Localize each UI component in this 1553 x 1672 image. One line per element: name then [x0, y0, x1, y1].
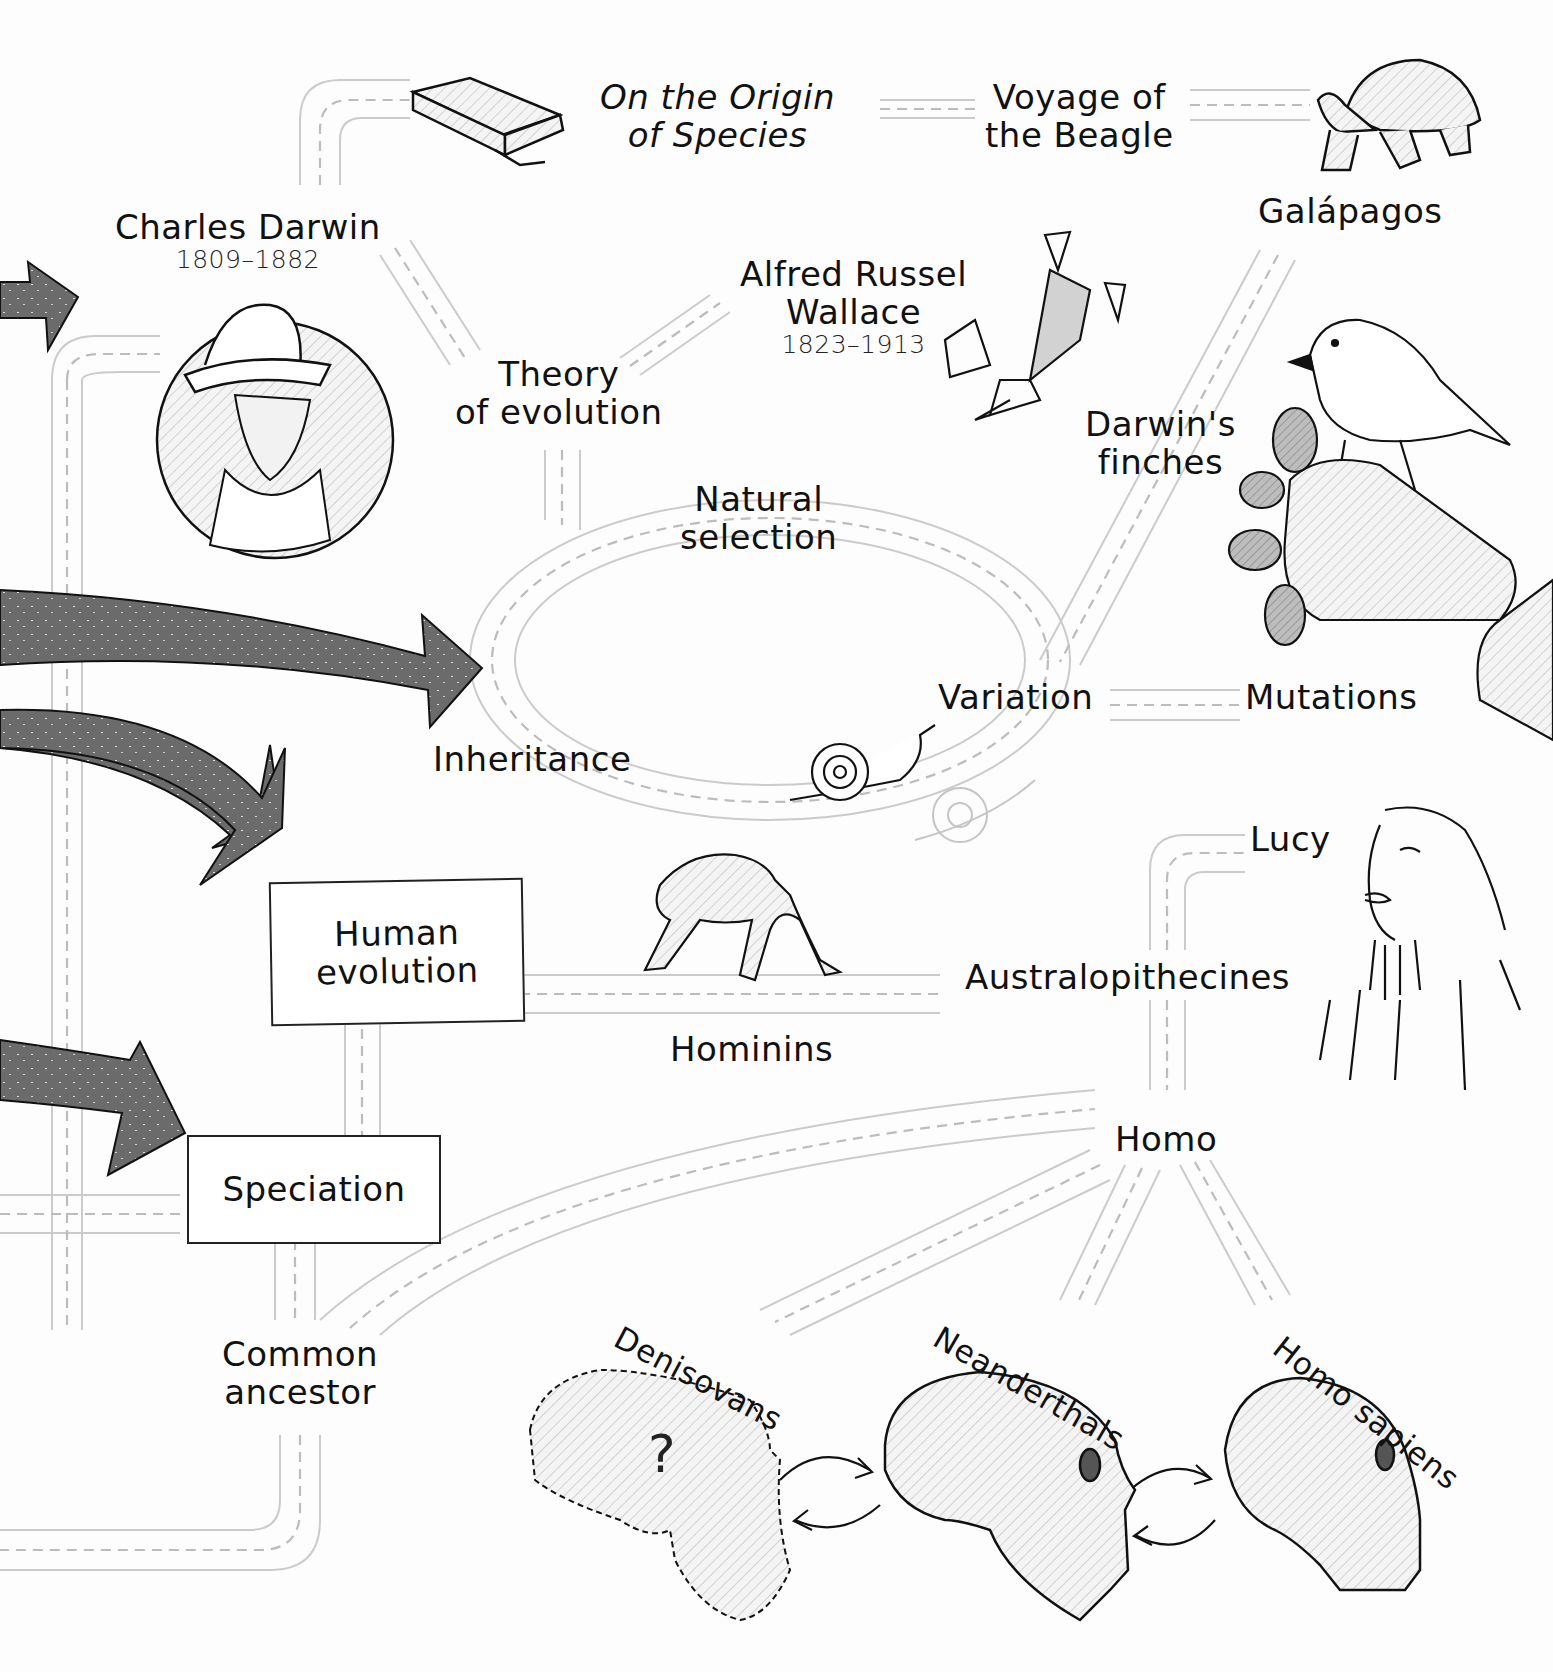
tortoise-icon — [1318, 60, 1480, 170]
natural-line1: Natural — [680, 480, 837, 518]
human-line2: evolution — [316, 951, 479, 992]
finches-line1: Darwin's — [1085, 405, 1236, 443]
node-darwins-finches: Darwin's finches — [1085, 405, 1236, 481]
node-hominins: Hominins — [670, 1030, 833, 1068]
denisovan-question-mark: ? — [648, 1425, 676, 1483]
node-charles-darwin: Charles Darwin 1809–1882 — [115, 208, 381, 274]
theory-line2: of evolution — [455, 393, 663, 431]
node-mutations: Mutations — [1245, 678, 1417, 716]
node-lucy: Lucy — [1250, 820, 1331, 858]
node-australopithecines: Australopithecines — [965, 958, 1290, 996]
voyage-line2: the Beagle — [985, 116, 1174, 154]
finches-line2: finches — [1085, 443, 1236, 481]
snail-icon — [790, 725, 935, 800]
human-line1: Human — [315, 913, 478, 954]
node-variation: Variation — [938, 678, 1093, 716]
snail-ghost-icon — [915, 780, 1035, 842]
lucy-portrait — [1320, 808, 1520, 1091]
natural-line2: selection — [680, 518, 837, 556]
node-natural-selection: Natural selection — [680, 480, 837, 556]
node-origin-of-species: On the Origin of Species — [600, 78, 835, 154]
node-theory-of-evolution: Theory of evolution — [455, 355, 663, 431]
common-line2: ancestor — [222, 1373, 378, 1411]
node-inheritance: Inheritance — [433, 740, 631, 778]
wallace-line2: Wallace — [740, 293, 967, 331]
voyage-line1: Voyage of — [985, 78, 1174, 116]
theory-line1: Theory — [455, 355, 663, 393]
node-galapagos: Galápagos — [1258, 192, 1442, 230]
common-line1: Common — [222, 1335, 378, 1373]
origin-line1: On the Origin — [600, 78, 835, 116]
node-homo: Homo — [1115, 1120, 1217, 1158]
chimpanzee-icon — [645, 854, 840, 980]
darwin-portrait — [157, 305, 393, 558]
node-human-evolution: Human evolution — [315, 913, 479, 992]
node-common-ancestor: Common ancestor — [222, 1335, 378, 1411]
flying-frog-icon — [945, 232, 1125, 420]
node-voyage-beagle: Voyage of the Beagle — [985, 78, 1174, 154]
wallace-line1: Alfred Russel — [740, 255, 967, 293]
node-speciation: Speciation — [222, 1170, 405, 1208]
box-speciation: Speciation — [187, 1135, 441, 1244]
darwin-years: 1809–1882 — [115, 246, 381, 274]
wallace-years: 1823–1913 — [740, 331, 967, 359]
book-icon — [413, 78, 563, 165]
node-wallace: Alfred Russel Wallace 1823–1913 — [740, 255, 967, 359]
origin-line2: of Species — [600, 116, 835, 154]
box-human-evolution: Human evolution — [269, 878, 525, 1026]
concept-map-canvas: On the Origin of Species Voyage of the B… — [0, 0, 1553, 1672]
darwin-name: Charles Darwin — [115, 208, 381, 246]
